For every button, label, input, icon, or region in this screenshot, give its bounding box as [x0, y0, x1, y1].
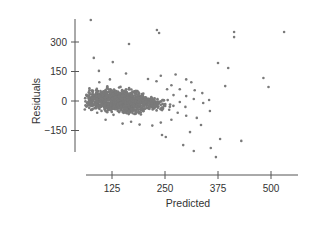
data-point — [208, 99, 211, 102]
data-point — [176, 112, 179, 115]
data-point — [114, 91, 117, 94]
x-axis: 125250375500 — [86, 171, 298, 194]
data-point — [153, 97, 156, 100]
data-point — [108, 91, 111, 94]
data-point — [119, 102, 122, 105]
data-point — [86, 102, 89, 105]
data-point — [128, 43, 131, 46]
data-point — [106, 85, 109, 88]
data-point — [193, 89, 196, 92]
data-point — [201, 92, 204, 95]
data-point — [168, 109, 171, 112]
data-point — [114, 96, 117, 99]
data-point — [151, 104, 154, 107]
data-point — [138, 104, 141, 107]
data-point — [112, 61, 115, 64]
data-point — [189, 131, 192, 134]
data-point — [166, 88, 169, 91]
data-point — [151, 124, 154, 127]
data-point — [179, 88, 182, 91]
data-point — [159, 100, 162, 103]
x-tick-label: 500 — [263, 183, 280, 194]
data-point — [185, 78, 188, 81]
data-point — [109, 108, 112, 111]
data-point — [97, 106, 100, 109]
data-point — [125, 88, 128, 91]
data-point — [159, 108, 162, 111]
data-point — [165, 136, 168, 139]
data-point — [193, 150, 196, 153]
data-point — [111, 98, 114, 101]
data-point — [90, 108, 93, 111]
data-point — [109, 104, 112, 107]
data-point — [162, 107, 165, 110]
data-point — [200, 124, 203, 127]
data-point — [184, 106, 187, 109]
data-point — [130, 88, 133, 91]
data-point — [233, 36, 236, 39]
data-point — [125, 93, 128, 96]
data-point — [127, 98, 130, 101]
data-point — [182, 144, 185, 147]
y-axis: 3001500−150 — [44, 19, 79, 152]
data-point — [158, 32, 161, 35]
data-point — [98, 101, 101, 104]
data-point — [210, 147, 213, 150]
data-point — [94, 104, 97, 107]
data-point — [148, 107, 151, 110]
data-point — [84, 104, 87, 107]
data-point — [107, 99, 110, 102]
data-point — [107, 103, 110, 106]
data-point — [157, 103, 160, 106]
data-point — [92, 97, 95, 100]
data-point — [147, 97, 150, 100]
data-point — [179, 101, 182, 104]
data-point — [144, 100, 147, 103]
data-point — [142, 95, 145, 98]
data-point — [124, 111, 127, 114]
data-point — [117, 106, 120, 109]
data-point — [185, 95, 188, 98]
x-tick-label: 250 — [157, 183, 174, 194]
data-point — [160, 75, 163, 78]
data-point — [95, 91, 98, 94]
data-point — [267, 86, 270, 89]
data-point — [262, 77, 265, 80]
data-point — [106, 94, 109, 97]
data-point — [125, 72, 128, 75]
data-point — [157, 106, 160, 109]
data-point — [93, 57, 96, 60]
data-point — [135, 92, 138, 95]
data-point — [193, 98, 196, 101]
data-point — [124, 107, 127, 110]
data-point — [136, 97, 139, 100]
data-point — [132, 105, 135, 108]
data-point — [118, 92, 121, 95]
data-point — [133, 97, 136, 100]
data-point — [224, 85, 227, 88]
data-point — [109, 78, 112, 81]
data-point — [141, 104, 144, 107]
data-point — [88, 89, 91, 92]
data-point — [219, 138, 222, 141]
data-point — [106, 111, 109, 114]
data-point — [113, 105, 116, 108]
data-point — [117, 99, 120, 102]
data-point — [124, 101, 127, 104]
data-point — [102, 105, 105, 108]
data-point — [170, 118, 173, 121]
data-point — [95, 95, 98, 98]
data-point — [131, 110, 134, 113]
data-point — [227, 67, 230, 70]
data-point — [88, 92, 91, 95]
y-tick-label: 150 — [50, 66, 67, 77]
data-point — [148, 102, 151, 105]
data-point — [172, 94, 175, 97]
data-point — [190, 81, 193, 84]
data-point — [90, 89, 93, 92]
data-point — [111, 90, 114, 93]
data-point — [131, 91, 134, 94]
data-point — [135, 100, 138, 103]
data-point — [90, 103, 93, 106]
data-point — [160, 121, 163, 124]
